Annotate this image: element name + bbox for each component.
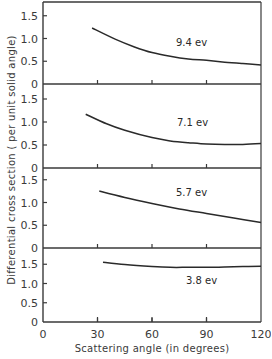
y-tick-label: 1.0 [21, 33, 39, 46]
x-axis-title: Scattering angle (in degrees) [75, 343, 230, 354]
data-curve [103, 262, 261, 267]
y-tick-label: 0.5 [21, 55, 39, 68]
panel-3-8-ev: 00.51.01.53.8 ev [21, 258, 262, 329]
y-tick-label: 0 [31, 242, 38, 255]
y-tick-label: 1.5 [21, 93, 39, 106]
y-axis-title: Differential cross section ( per unit so… [6, 35, 17, 285]
y-tick-label: 0 [31, 316, 38, 329]
curve-energy-label: 3.8 ev [186, 275, 217, 286]
x-tick-label: 90 [200, 328, 214, 341]
chart-panels: 00.51.01.59.4 ev00.51.01.57.1 ev00.51.01… [21, 10, 262, 329]
y-tick-label: 1.5 [21, 174, 39, 187]
y-tick-label: 1.5 [21, 10, 39, 23]
x-tick-label: 60 [145, 328, 159, 341]
curve-energy-label: 9.4 ev [176, 37, 207, 48]
y-tick-label: 1.5 [21, 258, 39, 271]
x-tick-label: 30 [91, 328, 105, 341]
y-tick-label: 0.5 [21, 139, 39, 152]
y-tick-label: 1.0 [21, 278, 39, 291]
panel-7-1-ev: 00.51.01.57.1 ev [21, 93, 262, 175]
panel-9-4-ev: 00.51.01.59.4 ev [21, 10, 262, 91]
stacked-cross-section-chart: 00.51.01.59.4 ev00.51.01.57.1 ev00.51.01… [0, 0, 271, 359]
curve-energy-label: 5.7 ev [176, 187, 207, 198]
chart-frame [43, 2, 261, 322]
x-axis: 0306090120 [40, 317, 272, 341]
y-tick-label: 0.5 [21, 297, 39, 310]
x-tick-label: 0 [40, 328, 47, 341]
curve-energy-label: 7.1 ev [177, 117, 208, 128]
y-tick-label: 1.0 [21, 197, 39, 210]
y-tick-label: 0.5 [21, 219, 39, 232]
y-tick-label: 0 [31, 78, 38, 91]
data-curve [86, 114, 261, 144]
y-tick-label: 1.0 [21, 116, 39, 129]
x-tick-label: 120 [251, 328, 272, 341]
panel-5-7-ev: 00.51.01.55.7 ev [21, 174, 262, 255]
